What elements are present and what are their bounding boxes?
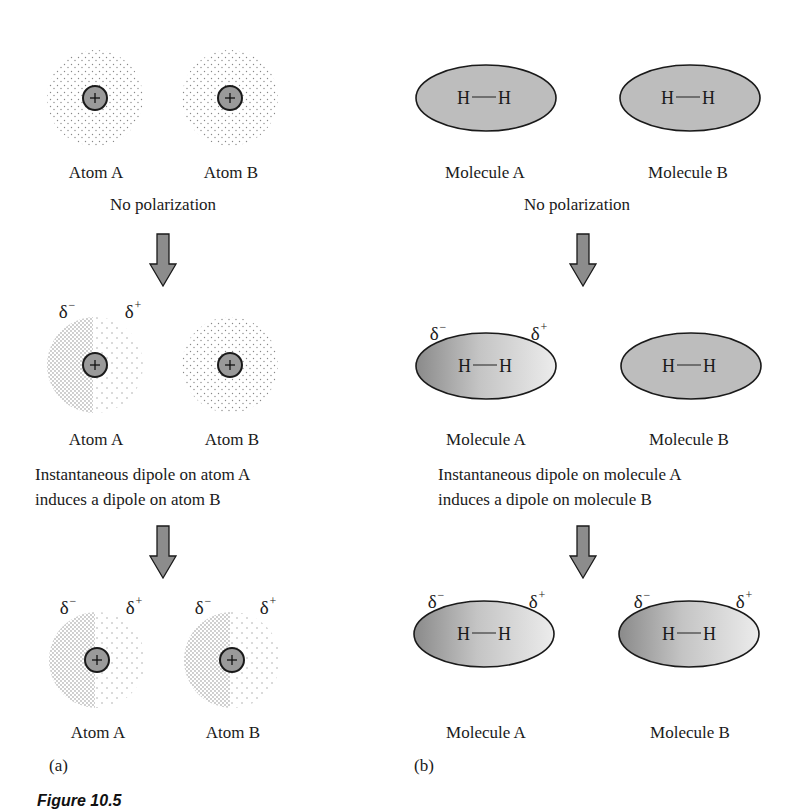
h2-formula: HH [662, 356, 716, 377]
single-bond [472, 632, 496, 633]
atom-b-stage3-polarized [184, 612, 280, 708]
nucleus-icon [85, 648, 109, 672]
h2-formula: HH [457, 88, 511, 109]
nucleus-icon [218, 353, 242, 377]
atom-label: Atom B [204, 163, 258, 183]
single-bond [472, 96, 496, 97]
atom-label: Atom B [205, 430, 259, 450]
nucleus-icon [218, 86, 242, 110]
atom-a-stage2-polarized [47, 317, 143, 413]
stage-description: Instantaneous dipole on atom A induces a… [35, 462, 250, 512]
down-arrow-icon [150, 234, 176, 286]
delta-minus-label: δ− [59, 298, 76, 323]
single-bond [473, 364, 497, 365]
delta-plus-label: δ+ [529, 588, 546, 613]
atom-a-stage3-polarized [49, 612, 145, 708]
description-line: Instantaneous dipole on atom A [35, 462, 250, 487]
description-line: induces a dipole on atom B [35, 487, 250, 512]
description-line: Instantaneous dipole on molecule A [438, 462, 682, 487]
panel-tag-a: (a) [49, 756, 68, 776]
delta-plus-label: δ+ [531, 320, 548, 345]
delta-plus-label: δ+ [736, 588, 753, 613]
h2-formula: HH [661, 88, 715, 109]
atom-label: Atom A [71, 723, 125, 743]
down-arrow-icon [150, 526, 176, 578]
molecule-label: Molecule A [446, 723, 526, 743]
h2-formula: HH [458, 356, 512, 377]
single-bond [676, 96, 700, 97]
single-bond [677, 364, 701, 365]
delta-minus-label: δ− [195, 594, 212, 619]
delta-minus-label: δ− [428, 588, 445, 613]
delta-plus-label: δ+ [125, 298, 142, 323]
delta-plus-label: δ+ [126, 594, 143, 619]
atom-label: Atom A [69, 163, 123, 183]
down-arrow-icon [570, 234, 596, 286]
delta-minus-label: δ− [634, 588, 651, 613]
atom-b-stage2 [182, 317, 278, 413]
figure-caption: Figure 10.5 [37, 792, 121, 810]
delta-plus-label: δ+ [260, 594, 277, 619]
stage-description: No polarization [110, 195, 216, 215]
molecule-label: Molecule B [649, 430, 729, 450]
description-line: induces a dipole on molecule B [438, 487, 682, 512]
nucleus-icon [83, 353, 107, 377]
atom-a-stage1 [47, 50, 143, 146]
nucleus-icon [220, 648, 244, 672]
h2-formula: HH [662, 624, 716, 645]
molecule-label: Molecule A [446, 430, 526, 450]
nucleus-icon [83, 86, 107, 110]
panel-tag-b: (b) [414, 756, 434, 776]
molecule-label: Molecule A [445, 163, 525, 183]
molecule-label: Molecule B [650, 723, 730, 743]
delta-minus-label: δ− [60, 594, 77, 619]
h2-formula: HH [457, 624, 511, 645]
atom-label: Atom A [69, 430, 123, 450]
stage-description: No polarization [524, 195, 630, 215]
molecule-label: Molecule B [648, 163, 728, 183]
delta-minus-label: δ− [430, 320, 447, 345]
stage-description: Instantaneous dipole on molecule A induc… [438, 462, 682, 512]
atom-label: Atom B [206, 723, 260, 743]
down-arrow-icon [570, 526, 596, 578]
atom-b-stage1 [182, 50, 278, 146]
single-bond [677, 632, 701, 633]
